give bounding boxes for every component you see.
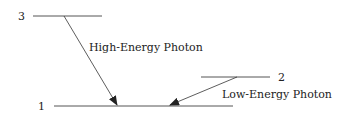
level-3-label: 3	[18, 10, 25, 23]
energy-level-3: 3	[18, 10, 102, 23]
energy-level-2: 2	[201, 71, 285, 84]
energy-level-diagram: 3 2 1 High-Energy Photon Low-Energy Phot…	[0, 0, 345, 118]
high-energy-transition: High-Energy Photon	[64, 16, 203, 105]
high-energy-photon-label: High-Energy Photon	[89, 41, 203, 54]
low-energy-photon-label: Low-Energy Photon	[222, 88, 332, 101]
energy-level-1: 1	[38, 100, 233, 113]
low-energy-transition: Low-Energy Photon	[170, 77, 332, 105]
arrow-icon	[64, 16, 117, 105]
level-2-label: 2	[278, 71, 285, 84]
level-1-label: 1	[38, 100, 45, 113]
